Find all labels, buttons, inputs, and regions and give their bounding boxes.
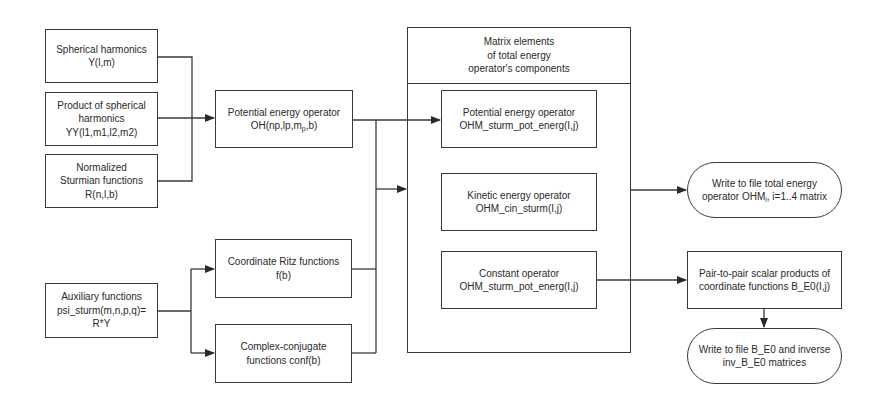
complex-conjugate-functions-box: Complex-conjugate functions conf(b) [215, 324, 352, 383]
box-label: f(b) [276, 269, 291, 283]
formula-part: operator OHM [702, 191, 765, 202]
box-label: Y(l,m) [88, 56, 115, 70]
box-label: OHM_sturm_pot_energ(I,j) [460, 280, 579, 294]
write-b-e0-terminal: Write to file B_E0 and inverse inv_B_E0 … [687, 328, 842, 384]
coordinate-ritz-functions-box: Coordinate Ritz functions f(b) [215, 239, 352, 298]
pair-scalar-products-box: Pair-to-pair scalar products of coordina… [687, 251, 842, 309]
box-label: Normalized [76, 161, 127, 175]
box-label: Potential energy operator [228, 106, 340, 120]
box-formula: OH(np,lp,mp,b) [251, 119, 318, 133]
box-label: Write to file B_E0 and inverse [699, 343, 831, 357]
box-label: Spherical harmonics [56, 43, 147, 57]
potential-energy-matrix-box: Potential energy operator OHM_sturm_pot_… [441, 90, 597, 148]
box-label: inv_B_E0 matrices [723, 356, 806, 370]
box-label: R(n,l,b) [85, 188, 118, 202]
header-label: of total energy [487, 49, 550, 63]
matrix-elements-header: Matrix elements of total energy operator… [408, 28, 630, 84]
formula-part: , i=1..4 matrix [767, 191, 827, 202]
product-spherical-harmonics-box: Product of spherical harmonics YY(l1,m1,… [45, 92, 158, 146]
auxiliary-functions-box: Auxiliary functions psi_sturm(m,n,p,q)= … [45, 283, 158, 338]
formula-part: ,b) [306, 120, 318, 131]
box-label: Pair-to-pair scalar products of [699, 267, 830, 281]
box-label: Write to file total energy [712, 177, 817, 191]
box-label: functions conf(b) [247, 354, 321, 368]
spherical-harmonics-box: Spherical harmonics Y(l,m) [45, 29, 158, 83]
box-label: Auxiliary functions [61, 290, 142, 304]
header-label: operator's components [468, 62, 569, 76]
box-label: YY(l1,m1,l2,m2) [66, 126, 138, 140]
box-label: Constant operator [479, 267, 559, 281]
box-label: Potential energy operator [463, 106, 575, 120]
box-formula: operator OHMi, i=1..4 matrix [702, 190, 827, 204]
box-label: Sturmian functions [60, 174, 143, 188]
normalized-sturmian-box: Normalized Sturmian functions R(n,l,b) [45, 154, 158, 208]
box-label: R*Y [93, 317, 111, 331]
constant-operator-matrix-box: Constant operator OHM_sturm_pot_energ(I,… [441, 251, 597, 309]
box-label: coordinate functions B_E0(I,j) [699, 280, 830, 294]
box-label: OHM_sturm_pot_energ(I,j) [460, 119, 579, 133]
formula-part: OH(np,lp,m [251, 120, 302, 131]
box-label: Coordinate Ritz functions [228, 255, 340, 269]
box-label: harmonics [78, 112, 124, 126]
header-label: Matrix elements [484, 35, 555, 49]
box-label: Product of spherical [57, 99, 145, 113]
box-label: Complex-conjugate [240, 340, 326, 354]
box-label: psi_sturm(m,n,p,q)= [57, 304, 146, 318]
write-total-energy-terminal: Write to file total energy operator OHMi… [687, 162, 842, 218]
box-label: Kinetic energy operator [467, 189, 570, 203]
kinetic-energy-matrix-box: Kinetic energy operator OHM_cin_sturm(I,… [441, 173, 597, 231]
potential-energy-operator-box: Potential energy operator OH(np,lp,mp,b) [215, 90, 353, 148]
box-label: OHM_cin_sturm(I,j) [476, 202, 563, 216]
